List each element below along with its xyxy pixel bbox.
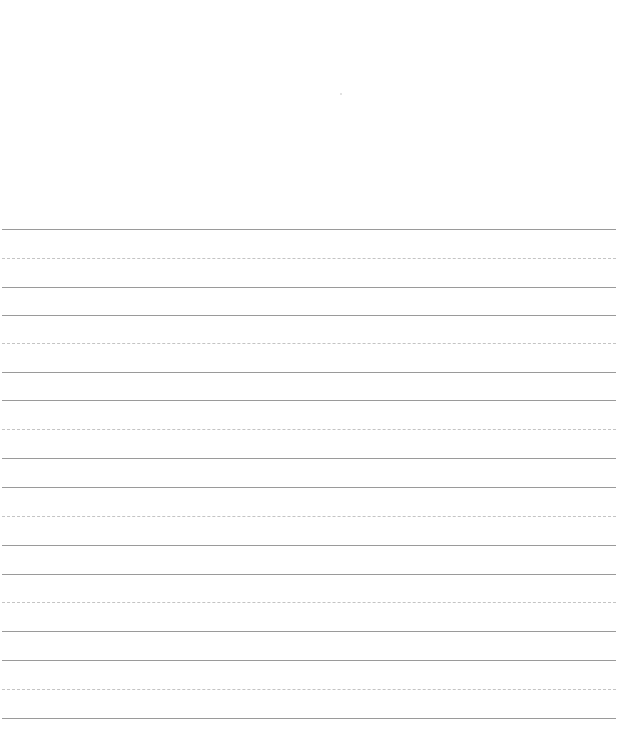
midline: [2, 258, 616, 259]
baseline: [2, 287, 616, 288]
midline: [2, 689, 616, 690]
baseline: [2, 458, 616, 459]
top-line: [2, 229, 616, 230]
midline: [2, 516, 616, 517]
stray-mark: [340, 93, 342, 95]
top-line: [2, 315, 616, 316]
top-line: [2, 400, 616, 401]
midline: [2, 429, 616, 430]
baseline: [2, 372, 616, 373]
top-line: [2, 487, 616, 488]
baseline: [2, 718, 616, 719]
midline: [2, 602, 616, 603]
practice-sheet: [0, 0, 631, 731]
top-line: [2, 574, 616, 575]
baseline: [2, 631, 616, 632]
top-line: [2, 660, 616, 661]
baseline: [2, 545, 616, 546]
midline: [2, 343, 616, 344]
